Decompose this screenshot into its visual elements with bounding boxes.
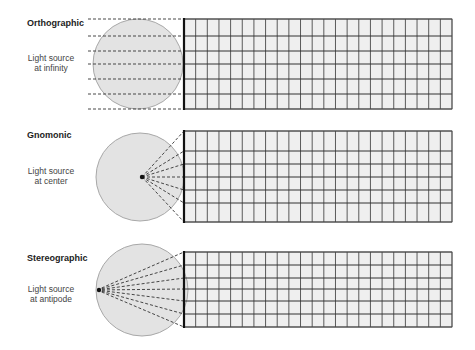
stereographic-description: Light source at antipode <box>27 284 75 304</box>
orthographic-desc-line1: Light source <box>27 53 75 63</box>
stereographic-title: Stereographic <box>27 253 88 263</box>
orthographic-desc-line2: at infinity <box>27 63 75 73</box>
orthographic-title: Orthographic <box>27 18 84 28</box>
gnomonic-description: Light source at center <box>27 166 75 186</box>
stereographic-desc-line1: Light source <box>27 284 75 294</box>
stereographic-light-source-point <box>97 288 101 292</box>
gnomonic-desc-line2: at center <box>27 176 75 186</box>
orthographic-description: Light source at infinity <box>27 53 75 73</box>
gnomonic-light-source-point <box>140 175 144 179</box>
stereographic-desc-line2: at antipode <box>27 294 75 304</box>
gnomonic-desc-line1: Light source <box>27 166 75 176</box>
gnomonic-title: Gnomonic <box>27 130 72 140</box>
